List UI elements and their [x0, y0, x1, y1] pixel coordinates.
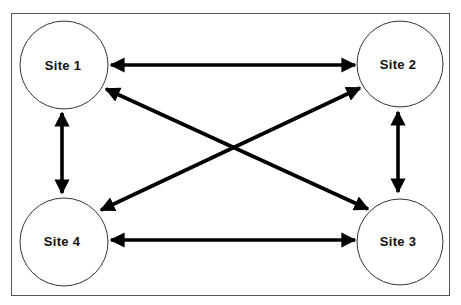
- node-label-site3: Site 3: [380, 234, 416, 249]
- node-label-site1: Site 1: [45, 58, 81, 73]
- network-diagram: [0, 0, 461, 305]
- node-label-site2: Site 2: [380, 57, 416, 72]
- node-label-site4: Site 4: [44, 234, 80, 249]
